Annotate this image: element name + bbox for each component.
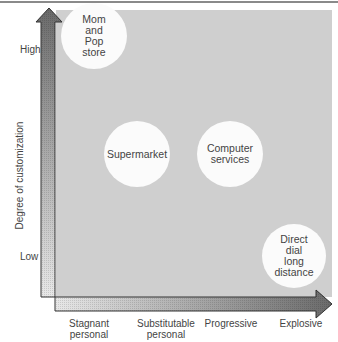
- x-label-stagnant: Stagnant personal: [56, 318, 122, 340]
- node-label: Supermarket: [107, 149, 167, 160]
- axis-arrows: [0, 0, 338, 342]
- y-label-low: Low: [20, 251, 38, 262]
- x-label-explosive: Explosive: [268, 318, 334, 329]
- node-direct-dial: Direct dial long distance: [262, 224, 326, 288]
- node-label: Direct dial long distance: [274, 234, 313, 278]
- node-label: Mom and Pop store: [82, 14, 105, 58]
- node-mom-and-pop: Mom and Pop store: [61, 3, 127, 69]
- y-axis-title: Degree of customization: [14, 111, 25, 241]
- y-label-high: High: [20, 44, 41, 55]
- node-computer-services: Computer services: [197, 121, 263, 187]
- x-label-substitutable: Substitutable personal: [126, 318, 206, 340]
- x-axis-arrow: [55, 290, 332, 318]
- x-label-progressive: Progressive: [198, 318, 264, 329]
- node-supermarket: Supermarket: [104, 121, 170, 187]
- node-label: Computer services: [207, 143, 253, 165]
